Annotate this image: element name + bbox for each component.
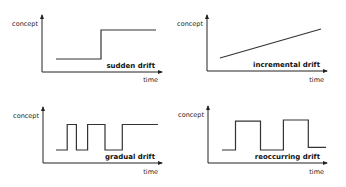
concept-signal xyxy=(222,120,326,150)
x-axis-label: time xyxy=(309,168,324,176)
panel-sudden: conceptsudden drifttime xyxy=(12,15,162,84)
panel-incremental: conceptincremental drifttime xyxy=(177,15,327,84)
x-axis-label: time xyxy=(143,168,158,176)
panel-title: gradual drift xyxy=(105,153,156,161)
concept-signal xyxy=(56,30,156,59)
x-axis-label: time xyxy=(309,76,324,84)
panel-title: incremental drift xyxy=(253,61,321,69)
panel-gradual: conceptgradual drifttime xyxy=(13,107,162,176)
y-axis-label: concept xyxy=(177,20,203,28)
concept-signal xyxy=(56,125,158,151)
y-axis-label: concept xyxy=(13,112,39,120)
panel-title: sudden drift xyxy=(106,62,155,70)
concept-drift-diagram: conceptsudden drifttimeconceptincrementa… xyxy=(0,0,346,187)
y-axis-label: concept xyxy=(12,20,38,28)
y-axis-label: concept xyxy=(178,111,204,119)
panel-title: reoccurring drift xyxy=(255,153,321,161)
panel-reoccurring: conceptreoccurring drifttime xyxy=(178,106,327,176)
x-axis-label: time xyxy=(143,76,158,84)
concept-signal xyxy=(220,29,321,58)
